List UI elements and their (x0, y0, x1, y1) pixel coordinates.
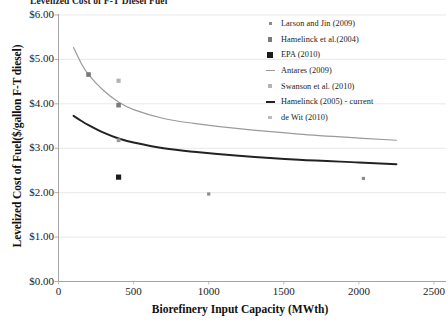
line-swatch (262, 101, 278, 103)
data-point-marker (117, 138, 121, 142)
chart-title: Levelized Cost of F-T Diesel Fuel (30, 0, 360, 5)
legend-item[interactable]: Antares (2009) (262, 63, 448, 79)
pale-square-marker (262, 116, 278, 120)
light-square-marker (262, 84, 278, 88)
data-point-marker (116, 175, 121, 180)
legend-item[interactable]: Swanson et al. (2010) (262, 78, 448, 94)
y-axis-tick-label: $2.00 (8, 187, 54, 198)
legend-item[interactable]: Hamelinck (2005) - current (262, 94, 448, 110)
legend-item-label: de Wit (2010) (278, 113, 328, 122)
y-axis-tick-label: $6.00 (8, 9, 54, 20)
line-swatch (262, 70, 278, 71)
y-axis-tick-label: $4.00 (8, 98, 54, 109)
legend-item-label: Antares (2009) (278, 66, 332, 75)
x-axis-tick-label: 2000 (329, 285, 389, 297)
small-square-marker (262, 22, 278, 25)
x-axis-tick-label: 2500 (404, 285, 448, 297)
y-axis-tick-label: $1.00 (8, 231, 54, 242)
chart-container: Levelized Cost of F-T Diesel Fuel Leveli… (0, 0, 448, 326)
x-axis-tick-label: 0 (29, 285, 89, 297)
chart-legend: Larson and Jin (2009)Hamelinck et al.(20… (262, 16, 448, 125)
y-axis-tick-label: $5.00 (8, 53, 54, 64)
legend-item[interactable]: de Wit (2010) (262, 110, 448, 126)
legend-item[interactable]: Larson and Jin (2009) (262, 16, 448, 32)
legend-item[interactable]: Hamelinck et al.(2004) (262, 32, 448, 48)
y-axis-tick-label: $3.00 (8, 142, 54, 153)
legend-item-label: Swanson et al. (2010) (278, 82, 354, 91)
x-axis-title: Biorefinery Input Capacity (MWth) (40, 303, 440, 315)
x-axis-tick-label: 1000 (179, 285, 239, 297)
y-axis-ticks: $6.00$5.00$4.00$3.00$2.00$1.00$0.00 (0, 0, 54, 326)
legend-item-label: EPA (2010) (278, 50, 320, 59)
data-point-marker (207, 192, 210, 195)
data-point-marker (86, 72, 91, 77)
legend-item-label: Hamelinck et al.(2004) (278, 35, 359, 44)
data-point-marker (116, 79, 120, 83)
x-axis-tick-label: 500 (104, 285, 164, 297)
square-marker (262, 37, 278, 42)
legend-item[interactable]: EPA (2010) (262, 47, 448, 63)
data-point-marker (116, 103, 121, 108)
filled-square-marker (262, 52, 278, 57)
x-axis-tick-label: 1500 (254, 285, 314, 297)
legend-item-label: Larson and Jin (2009) (278, 19, 355, 28)
data-point-marker (362, 177, 365, 180)
legend-item-label: Hamelinck (2005) - current (278, 97, 373, 106)
